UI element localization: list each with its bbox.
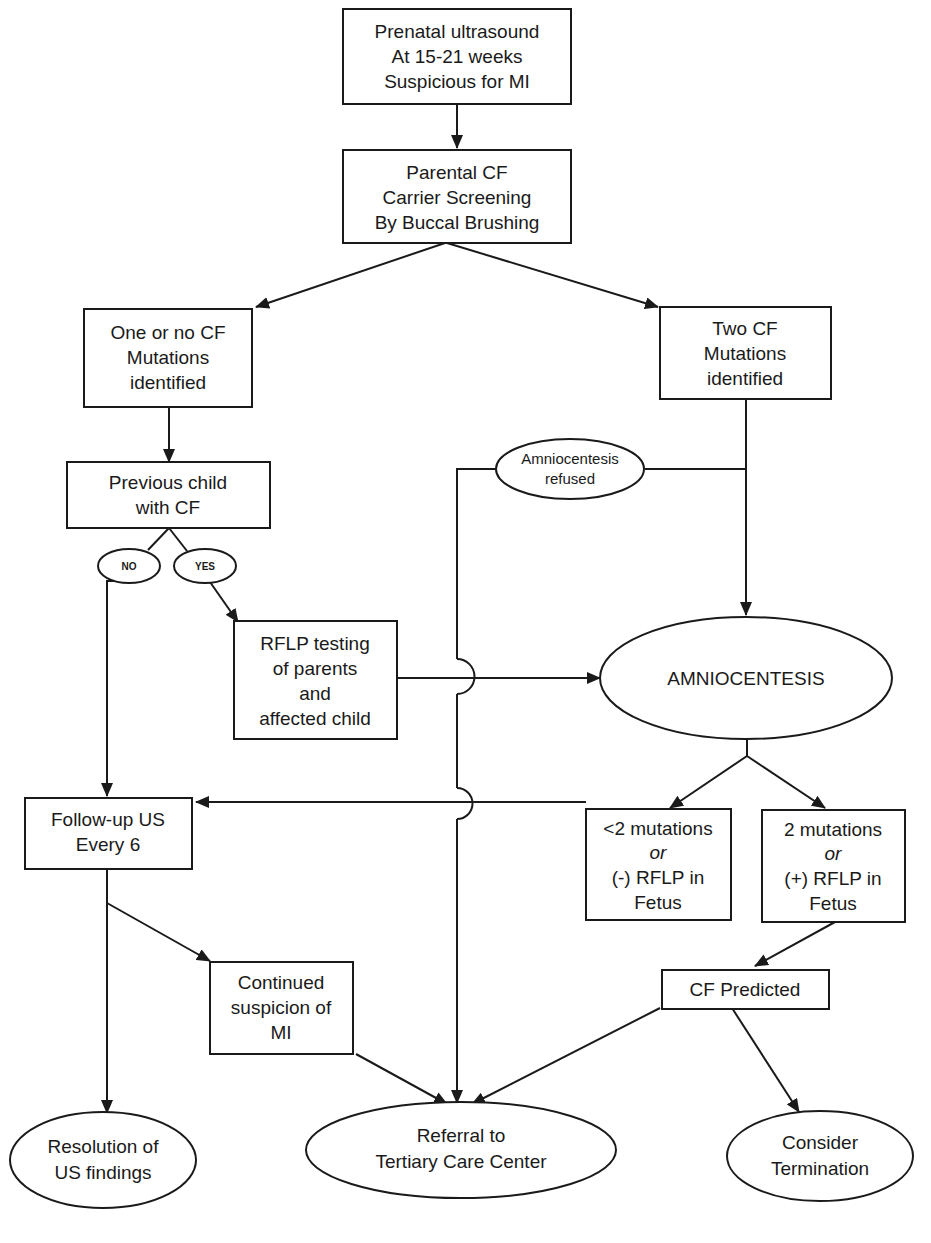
node-two-cf-line-2: Mutations [704, 343, 786, 364]
node-followup-us: Follow-up US Every 6 [25, 798, 192, 869]
edge-amnio-refused-left [457, 469, 496, 659]
node-two-cf-line-1: Two CF [712, 318, 777, 339]
node-prenatal-ultrasound: Prenatal ultrasound At 15-21 weeks Suspi… [343, 9, 571, 104]
node-cf-predicted-text: CF Predicted [690, 979, 801, 1000]
node-two-mutations-line-2: or [825, 843, 843, 864]
edge-yes-to-rflp [210, 582, 238, 622]
branch-no-text: NO [122, 561, 137, 572]
node-continued-line-1: Continued [238, 972, 325, 993]
flowchart-canvas: Prenatal ultrasound At 15-21 weeks Suspi… [0, 0, 931, 1243]
node-resolution-line-1: Resolution of [48, 1136, 160, 1157]
node-continued-line-3: MI [270, 1022, 291, 1043]
node-one-or-no-line-2: Mutations [127, 347, 209, 368]
edge-screening-to-one-or-no [256, 243, 445, 307]
node-amnio-refused-line-1: Amniocentesis [521, 450, 619, 467]
edge-previous-child-to-yes [169, 528, 187, 551]
node-rflp-testing: RFLP testing of parents and affected chi… [234, 621, 397, 739]
node-referral: Referral to Tertiary Care Center [306, 1102, 616, 1198]
node-previous-child-line-2: with CF [135, 497, 200, 518]
node-one-or-no-line-1: One or no CF [110, 322, 225, 343]
node-amniocentesis-text: AMNIOCENTESIS [667, 668, 824, 689]
node-rflp-line-2: of parents [273, 658, 358, 679]
branch-no-label: NO [98, 549, 160, 583]
branch-yes-label: YES [174, 549, 236, 583]
node-one-or-no-line-3: identified [130, 372, 206, 393]
node-two-cf-line-3: identified [707, 368, 783, 389]
edge-amnio-to-less-than-2 [670, 756, 747, 808]
node-continued-suspicion: Continued suspicion of MI [210, 962, 353, 1054]
edge-screening-to-two-cf [447, 243, 658, 307]
node-two-mutations-line-3: (+) RFLP in [784, 868, 881, 889]
jump-arc-followup [457, 788, 472, 819]
node-prenatal-ultrasound-line-1: Prenatal ultrasound [375, 21, 540, 42]
node-resolution-line-2: US findings [54, 1162, 151, 1183]
node-less-than-2-line-4: Fetus [634, 892, 682, 913]
node-prenatal-ultrasound-line-3: Suspicious for MI [384, 71, 530, 92]
edge-followup-to-continued [107, 903, 210, 961]
node-parental-screening-line-1: Parental CF [406, 162, 507, 183]
node-rflp-line-4: affected child [259, 708, 371, 729]
node-parental-screening-line-2: Carrier Screening [383, 187, 532, 208]
node-referral-line-2: Tertiary Care Center [375, 1151, 547, 1172]
node-rflp-line-3: and [299, 683, 331, 704]
node-two-cf-mutations: Two CF Mutations identified [660, 307, 831, 399]
node-cf-predicted: CF Predicted [662, 970, 829, 1009]
node-prenatal-ultrasound-line-2: At 15-21 weeks [392, 46, 523, 67]
node-two-mutations-line-1: 2 mutations [784, 819, 882, 840]
edge-continued-to-referral [356, 1054, 447, 1104]
node-resolution: Resolution of US findings [10, 1112, 196, 1208]
branch-yes-text: YES [195, 561, 215, 572]
jump-arc-rflp [457, 659, 475, 694]
node-less-than-2-line-1: <2 mutations [603, 818, 712, 839]
node-two-mutations-line-4: Fetus [809, 893, 857, 914]
edge-previous-child-to-no [148, 528, 169, 550]
flowchart-svg: Prenatal ultrasound At 15-21 weeks Suspi… [0, 0, 931, 1243]
edge-cf-predicted-to-referral [472, 1008, 660, 1104]
node-termination-line-2: Termination [771, 1158, 869, 1179]
node-parental-screening: Parental CF Carrier Screening By Buccal … [343, 150, 571, 243]
node-two-mutations: 2 mutations or (+) RFLP in Fetus [762, 810, 905, 922]
node-less-than-2-line-3: (-) RFLP in [612, 867, 705, 888]
node-previous-child-line-1: Previous child [109, 472, 227, 493]
node-continued-line-2: suspicion of [231, 997, 332, 1018]
edge-two-mutations-to-cf-predicted [755, 922, 835, 966]
node-amniocentesis-refused: Amniocentesis refused [496, 439, 644, 499]
edge-no-to-followup [107, 581, 115, 796]
node-rflp-line-1: RFLP testing [260, 633, 369, 654]
node-previous-child: Previous child with CF [67, 462, 270, 528]
node-consider-termination: Consider Termination [727, 1111, 913, 1201]
node-termination-line-1: Consider [782, 1132, 859, 1153]
node-amniocentesis: AMNIOCENTESIS [600, 617, 892, 739]
node-less-than-2-line-2: or [650, 842, 668, 863]
node-one-or-no-mutations: One or no CF Mutations identified [84, 309, 252, 407]
edge-amnio-to-two-mutations [747, 756, 825, 808]
node-followup-line-1: Follow-up US [51, 809, 165, 830]
node-followup-line-2: Every 6 [76, 834, 140, 855]
edge-cf-predicted-to-termination [732, 1008, 799, 1112]
node-less-than-two-mutations: <2 mutations or (-) RFLP in Fetus [586, 809, 731, 920]
node-parental-screening-line-3: By Buccal Brushing [375, 212, 540, 233]
node-referral-line-1: Referral to [417, 1125, 506, 1146]
node-amnio-refused-line-2: refused [545, 470, 595, 487]
